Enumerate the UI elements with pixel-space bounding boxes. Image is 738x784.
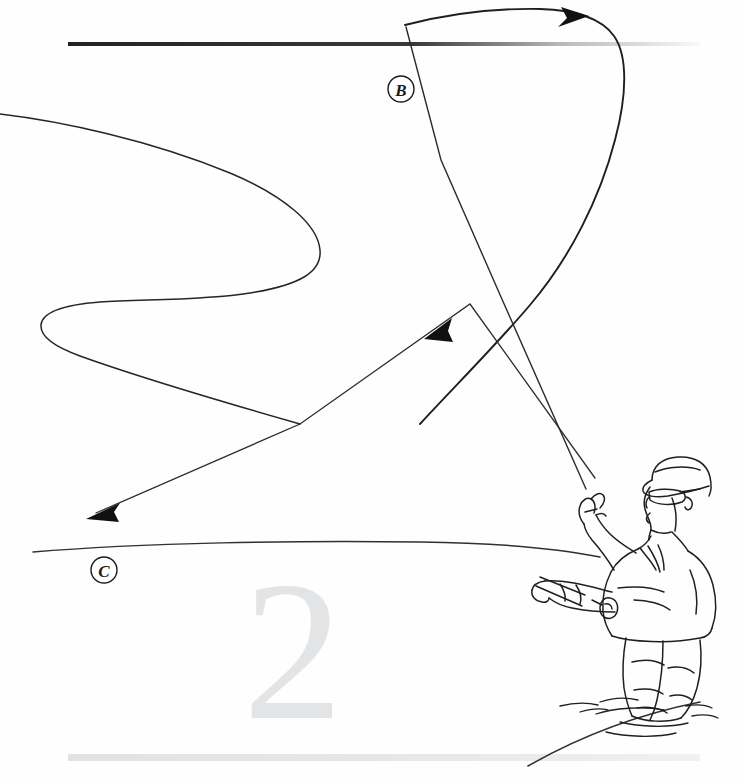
illustration-page: 2 [0,0,738,784]
fly-line-s-curve [0,114,320,424]
fisherman-figure [532,457,718,736]
collar [638,532,688,572]
descending-line [96,304,595,513]
jacket [603,549,716,642]
illustration-canvas: 2 [0,0,738,784]
waders [623,638,701,721]
arrow-forward-cast-direction [86,503,120,522]
rod-and-leader-line [406,27,586,489]
top-horizontal-rule [68,42,700,46]
ear [685,497,692,510]
label-c-text: C [98,562,110,581]
fly-reel [592,598,618,619]
label-c: C [91,557,117,583]
label-b: B [388,76,414,102]
bottom-horizontal-rule [68,754,700,761]
arrow-loop-travel-direction [558,7,589,27]
label-b-text: B [394,81,406,100]
arrow-line-descent-direction [424,318,453,342]
step-number-watermark: 2 [243,540,343,761]
upper-arm-raised [579,494,636,570]
fly-line-upper-arc [405,9,624,424]
